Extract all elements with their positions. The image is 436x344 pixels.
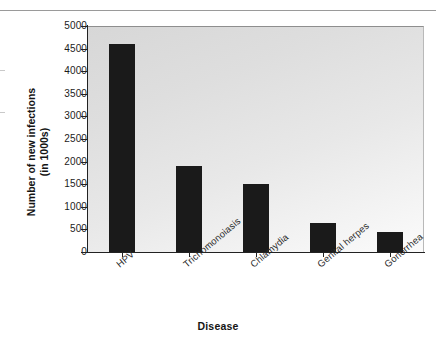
y-axis-tick-mark bbox=[81, 184, 87, 185]
bar bbox=[109, 44, 135, 252]
y-axis-title: Number of new infections (in 1000s) bbox=[25, 57, 51, 247]
left-edge-mark bbox=[0, 70, 5, 71]
bar bbox=[243, 184, 269, 252]
y-axis-tick-mark bbox=[81, 116, 87, 117]
y-axis-tick-label: 4500 bbox=[40, 43, 87, 55]
y-axis-tick-mark bbox=[81, 71, 87, 72]
y-axis-tick-label: 5000 bbox=[40, 20, 87, 32]
left-edge-mark bbox=[0, 112, 5, 113]
bar bbox=[176, 166, 202, 252]
x-axis-title: Disease bbox=[0, 320, 436, 332]
bar-chart-figure: 0500100015002000250030003500400045005000… bbox=[0, 0, 436, 344]
y-axis-tick-mark bbox=[81, 162, 87, 163]
y-axis-title-line2: (in 1000s) bbox=[38, 57, 51, 247]
y-axis-tick-mark bbox=[81, 252, 87, 253]
y-axis-tick-mark bbox=[81, 94, 87, 95]
y-axis-tick-mark bbox=[81, 49, 87, 50]
y-axis-title-line1: Number of new infections bbox=[25, 57, 38, 247]
top-divider-rule bbox=[0, 10, 436, 11]
y-axis-tick-mark bbox=[81, 26, 87, 27]
y-axis-tick-mark bbox=[81, 229, 87, 230]
y-axis-tick-mark bbox=[81, 139, 87, 140]
y-axis-tick-label: 0 bbox=[40, 246, 87, 258]
y-axis-line bbox=[87, 25, 88, 253]
y-axis-tick-mark bbox=[81, 207, 87, 208]
